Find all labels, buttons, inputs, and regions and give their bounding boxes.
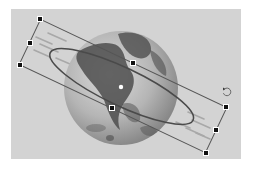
handle-middle-right[interactable] <box>214 128 219 133</box>
handle-top-left[interactable] <box>38 17 43 22</box>
handle-top-middle[interactable] <box>131 61 136 66</box>
handle-top-right[interactable] <box>224 105 229 110</box>
handle-middle-left[interactable] <box>28 41 33 46</box>
handle-bottom-left[interactable] <box>18 63 23 68</box>
handle-bottom-middle[interactable] <box>110 106 115 111</box>
handle-bottom-right[interactable] <box>204 151 209 156</box>
center-point[interactable] <box>119 85 123 89</box>
rotate-icon[interactable] <box>223 87 231 95</box>
canvas-stage[interactable] <box>0 0 255 172</box>
